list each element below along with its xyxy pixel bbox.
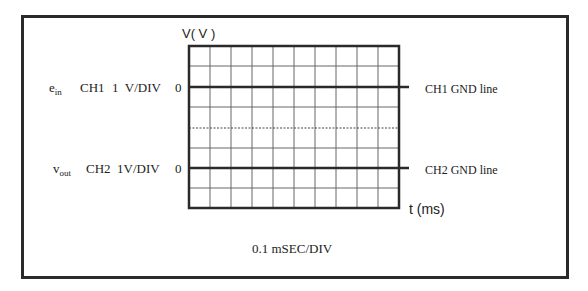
ch2-zero-label: 0 [175,162,182,176]
ch1-channel-label: CH1 [80,81,105,95]
y-axis-label: V( V ) [182,27,215,41]
timebase-label: 0.1 mSEC/DIV [252,242,332,256]
ch2-gnd-label: CH2 GND line [425,163,498,177]
ch2-channel-label: CH2 [86,162,111,176]
ch2-signal-name: vout [53,162,71,180]
ch1-scale-label: 1 V/DIV [112,81,161,95]
ch1-gnd-label: CH1 GND line [425,82,498,96]
ch2-scale-label: 1V/DIV [117,162,160,176]
grid-lines [189,46,399,208]
x-axis-label: t (ms) [409,202,445,216]
ch1-zero-label: 0 [175,81,182,95]
ch1-signal-name: ein [49,81,62,99]
